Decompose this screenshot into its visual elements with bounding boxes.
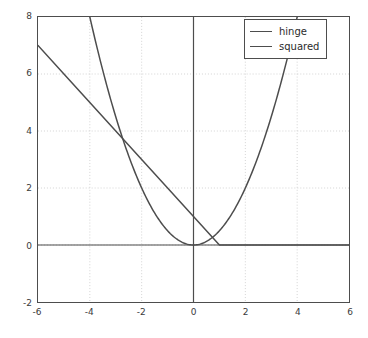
x-tick-label: -2 (137, 307, 146, 317)
legend-line-icon (250, 46, 272, 47)
legend-line-icon (250, 31, 272, 32)
x-tick-label: 2 (243, 307, 249, 317)
y-tick-label: 2 (8, 183, 32, 193)
legend-item-squared: squared (250, 39, 319, 54)
x-tick-label: -4 (85, 307, 94, 317)
x-tick-label: 6 (347, 307, 353, 317)
legend-item-hinge: hinge (250, 24, 319, 39)
y-tick-label: 4 (8, 126, 32, 136)
y-tick-label: 8 (8, 11, 32, 21)
y-tick-label: -2 (8, 298, 32, 308)
chart-legend: hinge squared (244, 19, 327, 59)
legend-label: hinge (279, 26, 307, 37)
x-tick-label: 0 (191, 307, 197, 317)
legend-label: squared (279, 41, 319, 52)
plot-area (37, 16, 350, 303)
x-tick-label: 4 (295, 307, 301, 317)
zero-lines (38, 17, 349, 302)
plot-canvas (38, 17, 349, 302)
y-tick-label: 6 (8, 68, 32, 78)
chart-figure: -6-4-20246 -202468 hinge squared (0, 0, 368, 338)
x-tick-label: -6 (33, 307, 42, 317)
y-tick-label: 0 (8, 241, 32, 251)
